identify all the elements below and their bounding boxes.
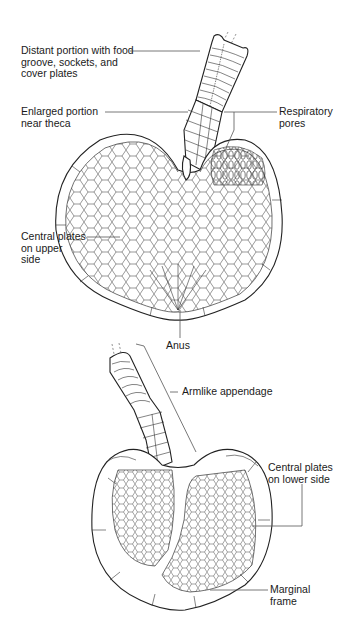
label-distant-portion: Distant portion with food groove, socket… [21,45,134,80]
label-central-plates-upper: Central plates on upper side [21,231,86,266]
label-central-plates-lower: Central plates on lower side [268,462,333,485]
theca-upper [56,134,283,320]
illustration-canvas [0,0,348,630]
label-anus: Anus [166,340,190,352]
label-enlarged-portion: Enlarged portion near theca [21,106,98,129]
label-armlike-appendage: Armlike appendage [182,386,272,398]
theca-lower [92,449,272,610]
distal-arm [196,32,248,112]
label-respiratory-pores: Respiratory pores [279,106,333,129]
label-marginal-frame: Marginal frame [270,584,310,607]
